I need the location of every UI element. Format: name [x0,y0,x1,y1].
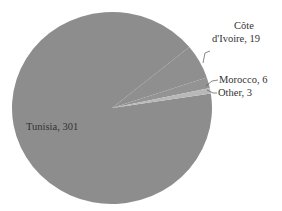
leader-line-cote-divoire [203,51,210,63]
label-cote-divoire-line2: d'Ivoire, 19 [212,33,260,45]
label-morocco: Morocco, 6 [219,74,267,86]
pie-slices [12,12,212,204]
label-tunisia: Tunisia, 301 [26,121,78,133]
label-other: Other, 3 [218,87,252,99]
pie-slice-tunisia [12,12,212,204]
label-cote-divoire-line1: Côte [234,20,254,32]
